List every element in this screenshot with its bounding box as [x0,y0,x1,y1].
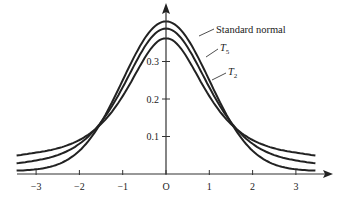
x-ticks: −3−2−1O123 [31,170,299,192]
series-labels: Standard normal T5 T2 [199,24,286,80]
x-tick-label: O [162,181,169,192]
leader-t5 [206,49,218,57]
y-tick-label: 0.1 [147,131,160,142]
label-t2: T2 [228,66,238,80]
y-tick-label: 0.3 [147,56,160,67]
x-tick-label: −3 [31,181,42,192]
x-tick-label: 2 [250,181,255,192]
leader-standard-normal [199,29,214,36]
x-tick-label: −1 [117,181,128,192]
leader-t2 [212,73,226,80]
chart-svg: −3−2−1O123 0.10.20.3 Standard normal T5 … [0,0,345,201]
y-tick-label: 0.2 [147,94,160,105]
label-t5: T5 [220,42,230,56]
label-standard-normal: Standard normal [216,24,286,35]
x-tick-label: −2 [74,181,85,192]
x-tick-label: 1 [207,181,212,192]
x-tick-label: 3 [293,181,298,192]
density-chart: −3−2−1O123 0.10.20.3 Standard normal T5 … [0,0,345,201]
